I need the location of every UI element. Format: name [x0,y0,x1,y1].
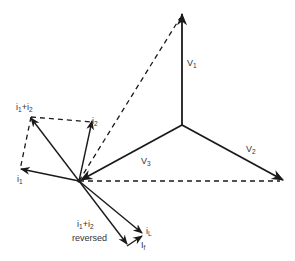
i2-phasor [79,121,92,181]
v2-phasor [182,125,283,180]
dashed-origin-to-v1 [79,18,180,181]
v2-label: V2 [246,144,256,155]
i1-phasor [21,169,79,181]
dashed-parallelogram-top [31,117,92,122]
v3-label: V3 [141,156,151,167]
iL-label: iL [146,226,152,237]
reversed-word-label: reversed [72,233,107,243]
i1-plus-i2-phasor [31,118,79,181]
reversed-sum-label: i1+i2 [77,219,94,230]
if-label: If [141,240,146,251]
if-phasor [127,236,142,246]
v1-label: V1 [187,58,197,69]
i2-label: i2 [92,116,98,127]
i1-plus-i2-label: i1+i2 [16,102,33,113]
i1-label: i1 [17,174,23,185]
dashed-parallelogram-left [20,117,31,170]
v3-phasor [81,125,182,180]
origin-point [77,179,81,183]
phasor-diagram: V1 V2 V3 i1+i2 i2 i1 iL If i1+i2 reverse… [0,0,295,261]
